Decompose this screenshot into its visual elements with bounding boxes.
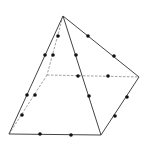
edge-point	[86, 34, 90, 38]
edge-point	[125, 95, 129, 99]
pyramid-diagram	[0, 0, 149, 144]
edge-point	[76, 74, 80, 78]
solid-edge	[63, 16, 139, 77]
edge-point	[87, 94, 91, 98]
edge-point	[25, 93, 29, 97]
solid-edges	[9, 16, 139, 135]
hidden-edge	[9, 75, 47, 134]
edge-point	[38, 132, 42, 136]
solid-edge	[101, 77, 139, 135]
edge-point	[43, 53, 47, 57]
edge-point	[113, 114, 117, 118]
edge-points	[20, 34, 129, 137]
edge-point	[106, 74, 110, 78]
edge-point	[112, 54, 116, 58]
hidden-edges	[9, 16, 139, 134]
hidden-edge	[47, 75, 139, 77]
edge-point	[74, 53, 78, 57]
edge-point	[51, 53, 55, 57]
edge-point	[33, 93, 37, 97]
edge-point	[69, 133, 73, 137]
edge-point	[56, 34, 60, 38]
edge-point	[20, 113, 24, 117]
solid-edge	[9, 134, 101, 135]
solid-edge	[9, 16, 63, 134]
